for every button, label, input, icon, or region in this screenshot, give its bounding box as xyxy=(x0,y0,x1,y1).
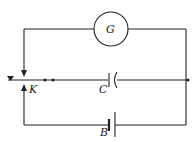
capacitor-label: C xyxy=(99,83,108,96)
junction-dot xyxy=(186,78,189,81)
galvanometer-label: G xyxy=(106,23,115,36)
capacitor: C xyxy=(99,72,117,96)
key-contact-dot xyxy=(43,78,46,81)
circuit-diagram: G C K B xyxy=(0,0,195,142)
key-upper-arrow-icon xyxy=(21,70,27,77)
key-contact-dot xyxy=(51,78,54,81)
top-branch xyxy=(21,29,186,80)
middle-branch xyxy=(7,76,190,82)
galvanometer: G xyxy=(94,12,128,46)
key: K xyxy=(28,83,38,96)
key-label: K xyxy=(28,83,38,96)
battery: B xyxy=(99,112,115,139)
battery-label: B xyxy=(99,126,108,139)
